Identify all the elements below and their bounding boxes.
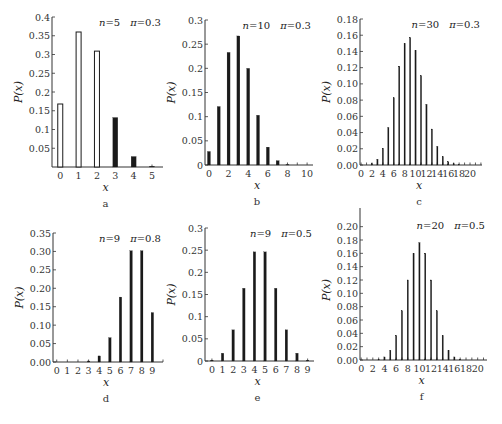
y-tick-label: 0.12 [337,275,358,286]
bar-x-5 [388,127,389,165]
y-tick-label: 0.15 [30,301,51,312]
x-axis-label: x [103,376,110,389]
chart-panel-c: 0.000.020.040.060.080.100.120.140.160.18… [320,14,482,208]
bar-x-17 [453,164,454,165]
bar-x-10 [415,50,416,165]
panel-label: e [255,392,261,403]
bar-x-7 [130,251,133,362]
x-tick-label: 10 [301,168,313,179]
panel-label: d [103,393,110,404]
y-tick-label: 0.05 [182,135,203,146]
bar-x-16 [454,357,455,360]
x-tick-label: 2 [369,168,375,179]
parameter-annotation: n=10 π=0.3 [243,20,311,31]
y-tick-label: 0.25 [29,68,50,79]
x-tick-label: 4 [380,168,386,179]
y-tick-label: 0.35 [29,30,50,41]
bar-x-2 [371,164,372,165]
y-tick-label: 0.04 [337,328,358,339]
y-tick-label: 0.04 [337,127,358,138]
y-tick-label: 0.15 [182,289,203,300]
y-tick-label: 0.12 [337,62,358,73]
panel-label: a [103,198,109,209]
bar-x-5 [149,166,154,167]
parameter-annotation: n=9 π=0.5 [250,228,312,239]
bar-x-6 [119,297,122,362]
bar-x-13 [436,311,437,360]
x-tick-label: 4 [131,170,137,181]
x-tick-label: 18 [460,363,472,374]
bar-x-8 [140,251,143,362]
x-tick-label: 7 [283,364,289,375]
bar-x-9 [409,37,410,165]
x-tick-label: 1 [76,170,82,181]
y-tick-label: 0.02 [337,341,358,352]
y-tick-label: 0.15 [29,105,50,116]
y-tick-label: 0.10 [337,288,358,299]
bar-x-2 [232,330,235,361]
y-tick-label: 0.10 [30,320,51,331]
parameter-annotation: n=9 π=0.8 [99,233,161,244]
bar-x-12 [426,104,427,165]
bar-x-11 [425,253,426,360]
y-tick-label: 0.16 [337,248,358,259]
bar-x-1 [221,353,224,361]
bar-x-4 [131,157,136,168]
y-tick-label: 0.1 [188,311,203,322]
bar-x-1 [217,107,220,165]
x-axis-label: x [416,179,423,192]
x-tick-label: 1 [64,365,70,376]
x-tick-label: 0 [54,365,60,376]
y-tick-label: 0.3 [188,223,203,234]
bar-x-8 [404,43,405,165]
x-tick-label: 0 [206,168,212,179]
parameter-annotation: n=30 π=0.3 [412,19,480,30]
bar-x-4 [382,148,383,165]
bar-x-0 [207,151,210,165]
x-axis-label: x [418,374,425,387]
x-tick-label: 0 [358,168,364,179]
bar-x-4 [253,252,256,361]
parameter-annotation: n=5 π=0.3 [99,17,161,28]
chart-panel-e: 00.050.10.150.20.250.30123456789P(x)xen=… [165,223,314,404]
bar-x-7 [401,311,402,360]
bar-x-9 [151,313,154,362]
bar-x-15 [448,350,449,360]
x-tick-label: 14 [437,363,449,374]
panel-label: c [416,196,422,207]
bar-x-0 [58,104,63,167]
x-tick-label: 8 [405,363,411,374]
y-axis-label: P(x) [165,81,178,104]
bar-x-6 [266,147,269,165]
bar-x-5 [109,338,112,362]
chart-panel-d: 0.000.050.100.150.200.250.300.3501234567… [13,228,163,405]
y-tick-label: 0.2 [188,63,203,74]
y-tick-label: 0.00 [337,355,358,366]
x-tick-label: 12 [425,363,437,374]
x-tick-label: 9 [149,365,155,376]
y-tick-label: 0.20 [337,221,358,232]
y-tick-label: 0.14 [337,46,358,57]
x-tick-label: 8 [284,168,290,179]
bar-x-7 [276,161,279,165]
x-tick-label: 8 [402,168,408,179]
x-tick-label: 20 [472,363,484,374]
x-tick-label: 2 [226,168,232,179]
bar-x-5 [264,252,267,361]
y-tick-label: 0.1 [188,111,203,122]
x-axis-label: x [254,375,261,388]
y-tick-label: 0.05 [30,338,51,349]
bar-x-8 [296,353,299,361]
panel-label: b [254,196,260,207]
bar-x-14 [442,335,443,360]
x-axis-label: x [102,181,109,194]
y-tick-label: 0.08 [337,95,358,106]
bar-x-13 [431,129,432,165]
chart-panel-f: 0.000.020.040.060.080.100.120.140.160.18… [320,208,487,402]
y-tick-label: 0.3 [35,49,50,60]
y-tick-label: 0.4 [35,12,50,23]
y-tick-label: 0.15 [182,87,203,98]
x-tick-label: 6 [265,168,271,179]
x-tick-label: 6 [273,364,279,375]
y-tick-label: 0.25 [182,39,203,50]
